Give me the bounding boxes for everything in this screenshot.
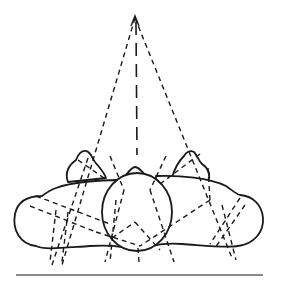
sight-line-center: [136, 22, 137, 155]
apex-arrow-icon: [131, 16, 139, 26]
diagram-canvas: [0, 0, 282, 285]
